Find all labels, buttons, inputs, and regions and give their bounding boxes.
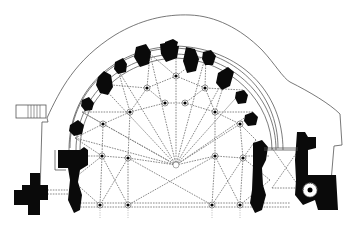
left-transept-masonry bbox=[14, 147, 88, 215]
keystone bbox=[173, 162, 179, 168]
apse-floor-plan bbox=[0, 0, 349, 229]
right-transept-masonry bbox=[250, 132, 338, 213]
left-stair bbox=[16, 105, 46, 118]
spiral-stair bbox=[303, 183, 317, 197]
outer-piers bbox=[69, 39, 258, 136]
